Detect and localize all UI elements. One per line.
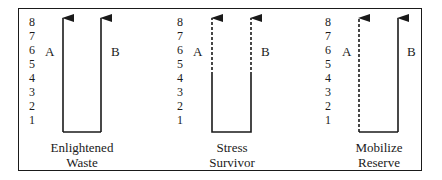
scale-number: 6: [175, 43, 185, 57]
label-a: A: [342, 45, 351, 59]
scale-number: 3: [27, 85, 37, 99]
caption-stress: Stress: [187, 140, 277, 155]
label-b: B: [261, 45, 270, 59]
scale-number: 7: [27, 29, 37, 43]
scale-number: 7: [323, 29, 333, 43]
scale-number: 3: [323, 85, 333, 99]
scale-number: 8: [323, 15, 333, 29]
caption-reserve: Reserve: [334, 155, 424, 170]
scale-number: 8: [27, 15, 37, 29]
caption-waste: Waste: [37, 155, 127, 170]
scale-number: 4: [27, 71, 37, 85]
scale-number: 4: [175, 71, 185, 85]
scale-number: 5: [323, 57, 333, 71]
label-b: B: [407, 45, 416, 59]
scale-number: 8: [175, 15, 185, 29]
scale-number: 5: [175, 57, 185, 71]
scale-number: 3: [175, 85, 185, 99]
panel-stress-survivor-arrows: [212, 18, 251, 132]
label-a: A: [45, 45, 54, 59]
scale-number: 1: [27, 113, 37, 127]
scale-number: 1: [175, 113, 185, 127]
panel-enlightened-waste-arrows: [63, 18, 101, 132]
u-base-line: [212, 75, 251, 132]
label-a: A: [193, 45, 202, 59]
scale-number: 5: [27, 57, 37, 71]
scale-number: 6: [27, 43, 37, 57]
caption-mobilize: Mobilize: [334, 140, 424, 155]
scale-number: 2: [323, 99, 333, 113]
scale-number: 2: [175, 99, 185, 113]
scale-number: 2: [27, 99, 37, 113]
panel-mobilize-reserve-arrows: [359, 18, 398, 132]
scale-number: 6: [323, 43, 333, 57]
scale-number: 4: [323, 71, 333, 85]
label-b: B: [111, 45, 120, 59]
scale-number: 1: [323, 113, 333, 127]
caption-enlightened: Enlightened: [37, 140, 127, 155]
caption-survivor: Survivor: [187, 155, 277, 170]
scale-number: 7: [175, 29, 185, 43]
